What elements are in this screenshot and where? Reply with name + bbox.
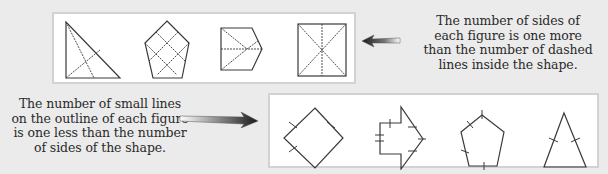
bottom-figure-panel: .o2 { fill: none; stroke: #3a3a3a; strok… (268, 93, 599, 168)
top-caption: The number of sides of each figure is on… (408, 14, 608, 72)
bottom-caption-line: The number of small lines (0, 97, 200, 112)
top-caption-line: lines inside the shape. (408, 58, 608, 73)
figure-house-pentagon (221, 28, 262, 70)
figure-pentagon-ticks (461, 110, 504, 170)
top-figure-panel: .o { fill: none; stroke: #3a3a3a; stroke… (52, 12, 356, 84)
bottom-caption: The number of small lines on the outline… (0, 97, 200, 155)
figure-pentagon-lattice (145, 21, 189, 78)
bottom-caption-line: of sides of the shape. (0, 141, 200, 156)
figure-right-triangle (66, 22, 120, 78)
bottom-caption-line: is one less than the number (0, 126, 200, 141)
arrow-left-icon (362, 34, 402, 48)
dashed-lines-figures: .o { fill: none; stroke: #3a3a3a; stroke… (54, 14, 358, 86)
bottom-caption-line: on the outline of each figure (0, 112, 200, 127)
top-caption-line: each figure is one more (408, 29, 608, 44)
tick-mark-figures: .o2 { fill: none; stroke: #3a3a3a; strok… (270, 95, 601, 170)
top-caption-line: The number of sides of (408, 14, 608, 29)
arrow-right-icon (178, 112, 258, 128)
figure-square-diagonals (298, 24, 346, 76)
figure-triangle-ticks (544, 113, 586, 167)
top-caption-line: than the number of dashed (408, 43, 608, 58)
figure-arrow-polygon (375, 107, 426, 169)
figure-diamond (284, 108, 343, 168)
